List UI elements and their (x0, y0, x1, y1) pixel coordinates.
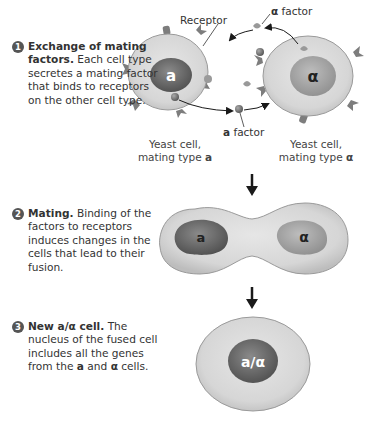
a-factor-leader (240, 113, 244, 127)
step-3-and: and (87, 360, 107, 372)
step-3-badge: 3 (12, 321, 24, 333)
alpha-factor-leader (262, 14, 270, 24)
fused-label-a: a (197, 230, 206, 245)
cell-a-caption-line2: mating type a (138, 151, 212, 163)
step-3-a: a (77, 360, 84, 372)
a-factor-inside (171, 93, 179, 101)
down-arrow-2-head (246, 299, 258, 309)
step-2: 2 Mating. Binding of the factors to rece… (12, 207, 162, 274)
cell-a-caption-line1: Yeast cell, (148, 138, 201, 150)
alpha-factor-bound (204, 75, 212, 83)
nucleus-label-a: a (166, 67, 176, 85)
alpha-factor-label: α factor (271, 5, 313, 17)
nucleus-label-alpha: α (308, 67, 319, 86)
step-3: 3 New a/α cell. The nucleus of the fused… (12, 320, 162, 374)
alpha-factor-free (243, 81, 251, 87)
step-1-badge: 1 (12, 41, 24, 53)
step-3-post: cells. (121, 360, 148, 372)
alpha-factor-arrow-in (230, 30, 253, 40)
step-2-title: Mating. (28, 207, 74, 219)
receptor-label: Receptor (180, 14, 228, 26)
a-factor-moving (235, 105, 243, 113)
a-factor-arrow-in (244, 104, 268, 110)
step-3-title: New a/α cell. (28, 320, 104, 332)
fused-label-alpha: α (299, 229, 309, 245)
cell-alpha-caption-line2: mating type α (279, 151, 353, 163)
alpha-factor-moving (253, 23, 261, 29)
cell-alpha-caption-line1: Yeast cell, (289, 138, 342, 150)
a-factor-label: a factor (223, 126, 265, 138)
a-factor-free (256, 48, 264, 56)
diploid-label: a/α (241, 354, 266, 370)
receptor-leader (203, 24, 218, 46)
down-arrow-1-head (246, 186, 258, 196)
step-3-alpha: α (111, 360, 118, 372)
step-1: 1 Exchange of mating factors. Each cell … (12, 40, 162, 107)
step-2-badge: 2 (12, 208, 24, 220)
